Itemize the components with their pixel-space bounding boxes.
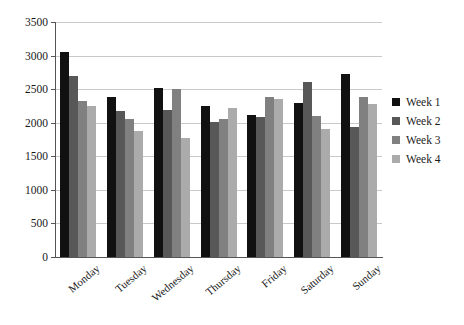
legend-item[interactable]: Week 1	[392, 94, 441, 110]
legend-label: Week 3	[406, 134, 441, 146]
bar[interactable]	[116, 111, 125, 257]
bar-group	[294, 22, 330, 257]
bar[interactable]	[107, 97, 116, 257]
legend-swatch-icon	[392, 98, 400, 106]
x-axis-tick-label: Saturday	[298, 262, 336, 296]
x-axis-tick-label: Wednesday	[149, 262, 195, 304]
bar[interactable]	[163, 110, 172, 257]
y-axis-line	[55, 22, 56, 258]
x-axis-line	[55, 257, 383, 258]
bar-group	[201, 22, 237, 257]
legend-swatch-icon	[392, 155, 400, 163]
legend-label: Week 1	[406, 96, 441, 108]
y-axis-tick-label: 2500	[25, 83, 48, 95]
bar[interactable]	[274, 99, 283, 257]
bar[interactable]	[350, 127, 359, 257]
bar[interactable]	[78, 101, 87, 257]
bar[interactable]	[303, 82, 312, 257]
bar[interactable]	[125, 119, 134, 257]
bar-group	[60, 22, 96, 257]
bar[interactable]	[359, 97, 368, 257]
bar[interactable]	[228, 108, 237, 257]
bar[interactable]	[172, 89, 181, 257]
bar[interactable]	[265, 97, 274, 257]
legend-swatch-icon	[392, 136, 400, 144]
bar[interactable]	[294, 103, 303, 257]
bar[interactable]	[60, 52, 69, 257]
legend-item[interactable]: Week 3	[392, 132, 441, 148]
bar[interactable]	[341, 74, 350, 257]
y-axis-tick-label: 500	[31, 217, 48, 229]
bar[interactable]	[321, 129, 330, 257]
bar[interactable]	[201, 106, 210, 257]
bar[interactable]	[69, 76, 78, 257]
legend: Week 1Week 2Week 3Week 4	[392, 94, 441, 170]
y-axis-tick-label: 0	[42, 251, 48, 263]
bar[interactable]	[256, 117, 265, 257]
x-axis-tick-label: Sunday	[349, 262, 382, 292]
bar-group	[341, 22, 377, 257]
legend-label: Week 4	[406, 153, 441, 165]
bar[interactable]	[368, 104, 377, 257]
legend-swatch-icon	[392, 117, 400, 125]
bar[interactable]	[219, 119, 228, 257]
bar-group	[154, 22, 190, 257]
legend-label: Week 2	[406, 115, 441, 127]
x-axis-tick-label: Tuesday	[113, 262, 149, 295]
bar[interactable]	[134, 131, 143, 257]
bar[interactable]	[181, 138, 190, 258]
bar-group	[107, 22, 143, 257]
bar[interactable]	[87, 106, 96, 257]
y-axis-tick-label: 2000	[25, 117, 48, 129]
y-axis-tick-label: 1500	[25, 150, 48, 162]
y-axis-tick-label: 3500	[25, 16, 48, 28]
x-axis-tick-label: Friday	[259, 262, 289, 290]
x-axis-tick-label: Monday	[66, 262, 102, 295]
bar[interactable]	[312, 116, 321, 257]
legend-item[interactable]: Week 2	[392, 113, 441, 129]
y-axis-tick-label: 3000	[25, 50, 48, 62]
legend-item[interactable]: Week 4	[392, 151, 441, 167]
plot-area: 0500100015002000250030003500	[55, 22, 382, 257]
bar[interactable]	[247, 115, 256, 257]
bar-chart: 0500100015002000250030003500 MondayTuesd…	[0, 0, 464, 325]
x-axis-tick-label: Thursday	[203, 262, 243, 298]
bar[interactable]	[210, 122, 219, 257]
bar[interactable]	[154, 88, 163, 257]
bar-group	[247, 22, 283, 257]
y-axis-tick-label: 1000	[25, 184, 48, 196]
